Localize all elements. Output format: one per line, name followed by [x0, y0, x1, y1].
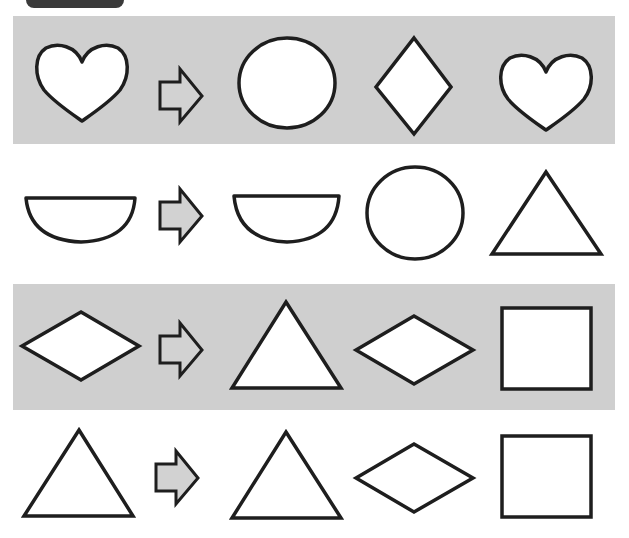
arrow-right-icon — [158, 186, 204, 244]
diamond-wide-icon[interactable] — [20, 310, 142, 382]
triangle-icon[interactable] — [230, 430, 344, 522]
arrow-right-icon — [158, 320, 204, 378]
heart-icon[interactable] — [32, 40, 132, 124]
semicircle-icon[interactable] — [232, 194, 342, 246]
diamond-tall-icon[interactable] — [374, 36, 454, 136]
square-icon[interactable] — [500, 306, 594, 392]
semicircle-icon[interactable] — [24, 196, 138, 246]
circle-icon[interactable] — [364, 164, 466, 262]
circle-icon[interactable] — [236, 36, 338, 130]
heart-icon[interactable] — [497, 50, 595, 130]
diamond-wide-icon[interactable] — [354, 442, 476, 514]
triangle-icon[interactable] — [490, 170, 604, 258]
square-icon[interactable] — [500, 434, 594, 520]
triangle-icon[interactable] — [22, 428, 136, 520]
arrow-right-icon — [158, 66, 204, 124]
diamond-wide-icon[interactable] — [354, 314, 476, 386]
header-tab — [26, 0, 124, 8]
arrow-right-icon — [154, 448, 200, 506]
triangle-icon[interactable] — [230, 300, 344, 392]
